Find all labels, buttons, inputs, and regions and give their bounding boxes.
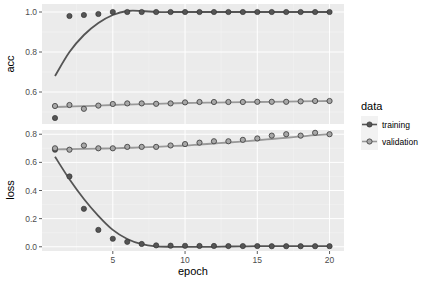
validation-point bbox=[313, 98, 318, 103]
training-point bbox=[96, 11, 101, 16]
legend-label-validation: validation bbox=[382, 137, 418, 147]
y-axis-title-loss: loss bbox=[4, 180, 16, 200]
x-tick-label: 10 bbox=[180, 255, 190, 265]
validation-point bbox=[211, 139, 216, 144]
validation-point bbox=[313, 130, 318, 135]
validation-point bbox=[211, 99, 216, 104]
validation-point bbox=[139, 101, 144, 106]
validation-point bbox=[110, 146, 115, 151]
training-point bbox=[284, 9, 289, 14]
training-point bbox=[81, 12, 86, 17]
training-point bbox=[226, 243, 231, 248]
validation-point bbox=[96, 103, 101, 108]
x-tick-label: 5 bbox=[110, 255, 115, 265]
y-tick-label: 0.6 bbox=[25, 157, 37, 167]
training-point bbox=[211, 243, 216, 248]
y-tick-label: 1.0 bbox=[25, 7, 37, 17]
training-point bbox=[255, 243, 260, 248]
training-point bbox=[96, 227, 101, 232]
validation-point bbox=[139, 144, 144, 149]
training-point bbox=[226, 9, 231, 14]
training-point bbox=[67, 13, 72, 18]
x-tick-label: 20 bbox=[325, 255, 335, 265]
validation-point bbox=[182, 100, 187, 105]
validation-point bbox=[168, 143, 173, 148]
y-tick-label: 0.2 bbox=[25, 214, 37, 224]
validation-point bbox=[226, 139, 231, 144]
training-point bbox=[327, 244, 332, 249]
validation-point bbox=[52, 146, 57, 151]
validation-point bbox=[255, 99, 260, 104]
validation-point bbox=[81, 143, 86, 148]
legend-title: data bbox=[361, 100, 383, 112]
validation-point bbox=[154, 101, 159, 106]
validation-point bbox=[240, 137, 245, 142]
legend-label-training: training bbox=[382, 120, 410, 130]
training-point bbox=[168, 243, 173, 248]
x-axis-title: epoch bbox=[178, 265, 208, 277]
validation-point bbox=[110, 101, 115, 106]
panel-loss: 0.00.20.40.60.85101520 bbox=[25, 129, 344, 265]
validation-point bbox=[52, 103, 57, 108]
training-point bbox=[139, 241, 144, 246]
legend-point-icon bbox=[367, 139, 372, 144]
validation-point bbox=[269, 99, 274, 104]
training-point bbox=[139, 9, 144, 14]
training-point bbox=[197, 243, 202, 248]
training-point bbox=[211, 9, 216, 14]
validation-point bbox=[154, 144, 159, 149]
validation-point bbox=[255, 136, 260, 141]
validation-point bbox=[67, 147, 72, 152]
x-tick-label: 15 bbox=[253, 255, 263, 265]
training-point bbox=[154, 9, 159, 14]
facet-panels: 0.60.81.00.00.20.40.60.85101520 bbox=[25, 4, 344, 265]
training-point bbox=[168, 9, 173, 14]
validation-point bbox=[197, 140, 202, 145]
legend: data training validation bbox=[361, 100, 418, 150]
validation-point bbox=[81, 106, 86, 111]
y-tick-label: 0.6 bbox=[25, 87, 37, 97]
y-tick-label: 0.4 bbox=[25, 186, 37, 196]
training-point bbox=[298, 244, 303, 249]
training-point bbox=[269, 9, 274, 14]
training-point bbox=[284, 244, 289, 249]
training-point bbox=[255, 9, 260, 14]
training-point bbox=[269, 244, 274, 249]
training-point bbox=[182, 9, 187, 14]
training-point bbox=[327, 9, 332, 14]
training-point bbox=[154, 243, 159, 248]
training-point bbox=[110, 9, 115, 14]
training-point bbox=[240, 9, 245, 14]
training-point bbox=[182, 243, 187, 248]
validation-point bbox=[269, 133, 274, 138]
training-point bbox=[52, 115, 57, 120]
y-tick-label: 0.0 bbox=[25, 242, 37, 252]
validation-point bbox=[298, 99, 303, 104]
validation-point bbox=[284, 99, 289, 104]
validation-point bbox=[240, 99, 245, 104]
training-history-chart: 0.60.81.00.00.20.40.60.85101520 acc loss… bbox=[0, 0, 423, 287]
legend-item-validation: validation bbox=[361, 133, 418, 150]
y-tick-label: 0.8 bbox=[25, 129, 37, 139]
validation-point bbox=[298, 133, 303, 138]
training-point bbox=[110, 236, 115, 241]
training-point bbox=[197, 9, 202, 14]
legend-item-training: training bbox=[361, 116, 410, 133]
y-axis-title-acc: acc bbox=[4, 55, 16, 73]
legend-point-icon bbox=[367, 122, 372, 127]
validation-point bbox=[96, 146, 101, 151]
training-point bbox=[298, 9, 303, 14]
training-point bbox=[125, 239, 130, 244]
panel-acc: 0.60.81.0 bbox=[25, 4, 344, 124]
validation-point bbox=[226, 99, 231, 104]
validation-point bbox=[327, 98, 332, 103]
validation-point bbox=[125, 101, 130, 106]
validation-point bbox=[125, 144, 130, 149]
training-point bbox=[240, 243, 245, 248]
y-tick-label: 0.8 bbox=[25, 47, 37, 57]
validation-point bbox=[284, 132, 289, 137]
training-point bbox=[125, 9, 130, 14]
validation-point bbox=[327, 132, 332, 137]
validation-point bbox=[182, 141, 187, 146]
validation-point bbox=[168, 101, 173, 106]
